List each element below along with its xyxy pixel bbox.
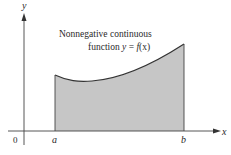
caption-line-1: Nonnegative continuous bbox=[59, 29, 152, 39]
shaded-area-region bbox=[55, 44, 184, 131]
right-bound-label: b bbox=[181, 134, 186, 145]
x-axis-label: x bbox=[221, 126, 227, 137]
y-axis-arrow-icon bbox=[22, 13, 27, 21]
left-bound-label: a bbox=[52, 134, 57, 145]
caption-arg: (x) bbox=[139, 42, 150, 53]
caption-prefix: function bbox=[88, 42, 122, 52]
y-axis-label: y bbox=[21, 0, 27, 11]
caption-equals: = bbox=[126, 42, 136, 52]
x-axis-arrow-icon bbox=[213, 129, 221, 134]
area-under-curve-diagram: y x 0 a b Nonnegative continuous functio… bbox=[0, 0, 231, 155]
caption-line-2: function y = f(x) bbox=[88, 42, 150, 53]
origin-label: 0 bbox=[13, 135, 18, 145]
